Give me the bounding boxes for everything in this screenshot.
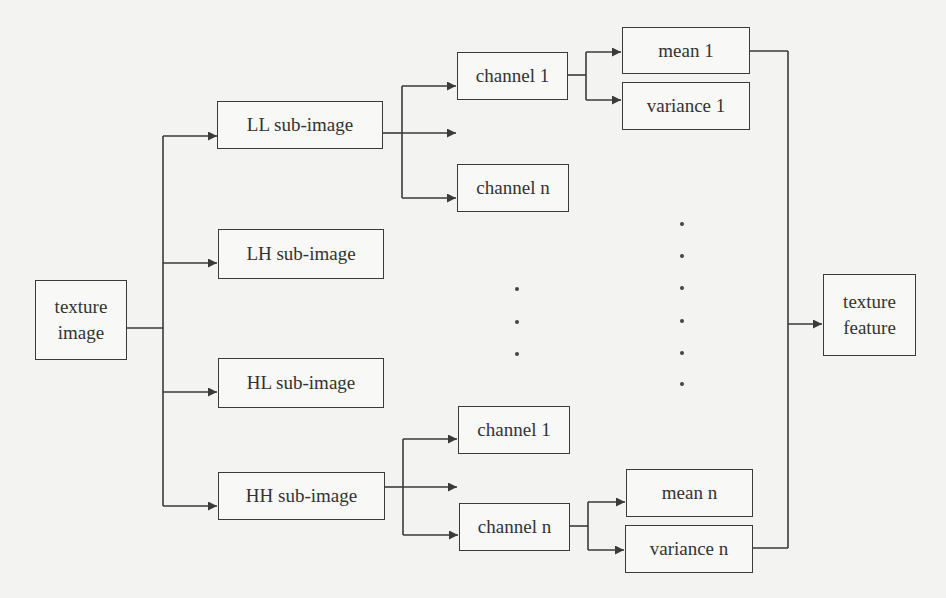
mean-1-node: mean 1 <box>622 27 750 74</box>
ellipsis-dot <box>680 382 684 386</box>
hl-subimage-node: HL sub-image <box>218 358 384 408</box>
hh-subimage-node: HH sub-image <box>218 472 385 520</box>
node-label: image <box>55 320 108 346</box>
ellipsis-dot <box>680 222 684 226</box>
ellipsis-dot <box>680 286 684 290</box>
ll-channel-n-node: channel n <box>457 164 569 212</box>
mean-n-node: mean n <box>626 469 753 517</box>
lh-subimage-node: LH sub-image <box>218 229 384 279</box>
node-label: texture <box>843 289 896 315</box>
node-label: texture <box>55 294 108 320</box>
hh-channel-1-node: channel 1 <box>458 406 570 454</box>
ll-channel-1-node: channel 1 <box>457 52 568 100</box>
variance-n-node: variance n <box>625 525 753 573</box>
ellipsis-dot <box>680 254 684 258</box>
hh-channel-n-node: channel n <box>459 503 570 551</box>
ll-subimage-node: LL sub-image <box>217 101 383 149</box>
ellipsis-dot <box>680 319 684 323</box>
node-label: feature <box>843 315 896 341</box>
texture-feature-node: texture feature <box>823 274 916 356</box>
texture-image-node: texture image <box>35 280 127 360</box>
ellipsis-dot <box>680 351 684 355</box>
ellipsis-dot <box>515 352 519 356</box>
variance-1-node: variance 1 <box>622 82 750 130</box>
ellipsis-dot <box>515 320 519 324</box>
ellipsis-dot <box>515 287 519 291</box>
